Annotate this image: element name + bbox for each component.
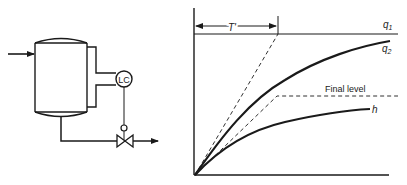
tank	[35, 39, 87, 117]
q2-curve	[195, 41, 390, 175]
q2-tangent-dashed	[195, 34, 278, 175]
controller-label: LC	[118, 75, 130, 85]
q2-label: q2	[382, 43, 392, 55]
response-plot: T' q1 q2 Final level h	[194, 8, 398, 175]
process-diagram: LC	[8, 39, 158, 148]
q1-label: q1	[383, 19, 393, 31]
h-curve	[195, 109, 370, 175]
time-constant-label: T'	[228, 22, 237, 33]
valve-actuator-icon	[121, 125, 127, 131]
figure-canvas: LC T' q1	[0, 0, 407, 185]
h-label: h	[372, 104, 378, 115]
control-valve-icon	[117, 135, 133, 147]
outlet-pipe	[61, 117, 117, 141]
final-level-label: Final level	[325, 84, 366, 94]
level-gauge	[87, 47, 116, 107]
level-controller: LC	[116, 71, 132, 87]
